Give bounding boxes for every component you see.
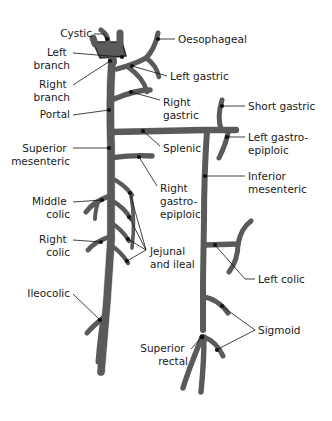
leader-right-gastroepiploic [139, 157, 157, 186]
leader-sigmoid-lower [218, 330, 255, 349]
label-group: Cystic Left branch Right branch Portal S… [11, 27, 315, 367]
dot-jejunal-2 [127, 215, 131, 219]
label-cystic: Cystic [60, 27, 92, 39]
dot-superior-rectal [200, 335, 205, 340]
right-colic-vein [88, 237, 109, 250]
dot-left-colic [213, 243, 217, 247]
label-right-gastroepiploic: Right gastro- epiploic [160, 182, 201, 220]
left-hepatic-branch [93, 38, 95, 44]
sigmoid-vein-upper [204, 297, 228, 313]
leader-right-branch [73, 61, 110, 85]
superior-rectal-vein-right [201, 337, 204, 392]
dot-left-branch [120, 55, 124, 59]
dot-left-gastric [130, 64, 134, 68]
dot-left-gastroepiploic [225, 135, 229, 139]
label-jejunal-and-ileal: Jejunal and ileal [149, 245, 195, 270]
portal-venous-system-diagram: Cystic Left branch Right branch Portal S… [0, 0, 332, 421]
dot-ileal-1 [125, 259, 129, 263]
dot-short-gastric [220, 104, 224, 108]
dot-superior-mesenteric [107, 146, 111, 150]
splenic-vein [111, 130, 236, 132]
dot-jejunal-1 [128, 191, 132, 195]
label-left-gastric: Left gastric [170, 70, 229, 82]
vessel-illustration: Cystic Left branch Right branch Portal S… [0, 0, 332, 421]
middle-colic-branch [95, 202, 98, 219]
label-inferior-mesenteric: Inferior mesenteric [248, 170, 307, 195]
sigmoid-vein-lower [204, 337, 223, 356]
dot-right-branch [108, 59, 112, 63]
dot-oesophageal [156, 37, 160, 41]
dot-middle-colic [100, 198, 104, 202]
dot-right-gastric [129, 90, 133, 94]
dot-cystic [105, 37, 109, 41]
left-colic-upper-arc [238, 221, 251, 244]
leader-ileal-1 [127, 250, 146, 261]
label-left-colic: Left colic [258, 273, 305, 285]
leader-ileocolic [73, 294, 100, 320]
dot-sigmoid-upper [220, 304, 224, 308]
dot-jejunal-3 [126, 237, 130, 241]
left-colic-lower-arc [229, 244, 238, 272]
label-splenic: Splenic [163, 142, 201, 154]
dot-splenic [141, 129, 145, 133]
dot-portal [107, 108, 111, 112]
right-gastroepiploic-vein [111, 156, 152, 158]
label-right-gastric: Right gastric [163, 96, 199, 121]
label-portal: Portal [40, 108, 70, 120]
left-colic-vein [205, 244, 238, 245]
label-short-gastric: Short gastric [248, 100, 315, 112]
leader-sigmoid-upper [223, 307, 255, 330]
label-right-branch: Right branch [34, 78, 71, 103]
label-ileocolic: Ileocolic [27, 287, 70, 299]
inferior-mesenteric-vein [203, 131, 207, 330]
label-left-branch: Left branch [34, 46, 71, 71]
dot-right-colic [99, 240, 103, 244]
oesophageal-vein-branch [146, 58, 159, 77]
label-oesophageal: Oesophageal [178, 33, 247, 45]
leader-portal [73, 110, 109, 115]
dot-ileocolic [98, 318, 102, 322]
portal-confluence [112, 48, 113, 62]
label-sigmoid: Sigmoid [258, 324, 300, 336]
oesophageal-vein [146, 33, 158, 58]
label-left-gastroepiploic: Left gastro- epiploic [248, 131, 312, 156]
label-superior-mesenteric: Superior mesenteric [11, 142, 70, 167]
label-middle-colic: Middle colic [32, 195, 70, 220]
dot-sigmoid-lower [215, 348, 219, 352]
dot-inferior-mesenteric [203, 174, 207, 178]
label-superior-rectal: Superior rectal [140, 342, 188, 367]
dot-right-gastroepiploic [137, 155, 141, 159]
label-right-colic: Right colic [39, 233, 70, 258]
